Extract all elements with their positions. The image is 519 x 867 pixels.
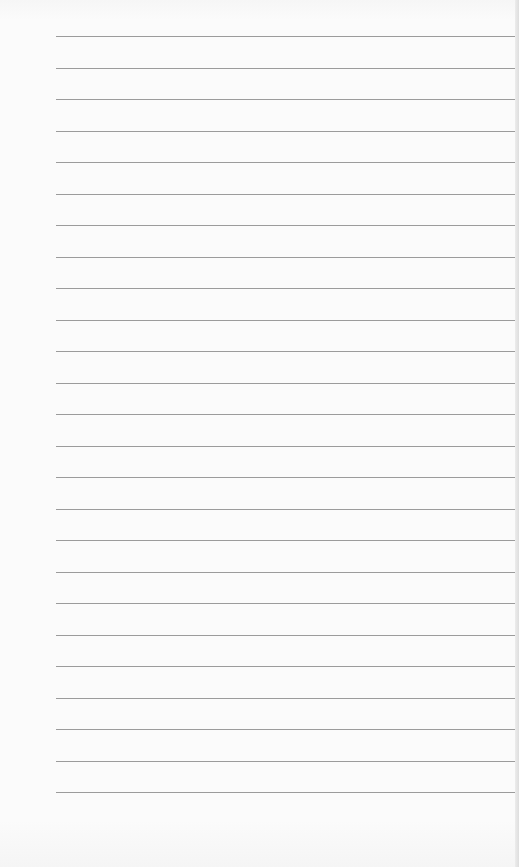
ruled-line	[56, 477, 515, 478]
ruled-line	[56, 225, 515, 226]
ruled-line	[56, 761, 515, 762]
ruled-line	[56, 131, 515, 132]
ruled-line	[56, 36, 515, 37]
ruled-line	[56, 729, 515, 730]
ruled-line	[56, 414, 515, 415]
ruled-line	[56, 603, 515, 604]
ruled-line	[56, 572, 515, 573]
ruled-line	[56, 99, 515, 100]
ruled-line	[56, 446, 515, 447]
ruled-line	[56, 320, 515, 321]
ruled-line	[56, 509, 515, 510]
ruled-line	[56, 540, 515, 541]
ruled-line	[56, 257, 515, 258]
ruled-line	[56, 666, 515, 667]
ruled-line	[56, 351, 515, 352]
ruled-line	[56, 383, 515, 384]
ruled-line	[56, 288, 515, 289]
lined-paper-sheet	[0, 0, 519, 867]
ruled-line	[56, 194, 515, 195]
ruled-line	[56, 698, 515, 699]
paper-edge-shadow	[515, 0, 519, 867]
ruled-line	[56, 635, 515, 636]
ruled-line	[56, 792, 515, 793]
ruled-line	[56, 162, 515, 163]
ruled-line	[56, 68, 515, 69]
